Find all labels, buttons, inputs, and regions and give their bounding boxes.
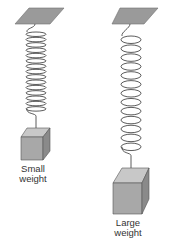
left-spring-assembly <box>15 8 64 160</box>
right-ceiling-plate <box>112 8 158 24</box>
large-weight-label-line2: weight <box>103 228 153 238</box>
small-weight-box <box>21 128 50 160</box>
large-weight-label: Large weight <box>103 218 153 238</box>
small-weight-label: Small weight <box>8 164 58 184</box>
right-spring-assembly <box>112 8 158 214</box>
small-weight-label-line2: weight <box>8 174 58 184</box>
right-spring <box>121 24 141 173</box>
spring-weight-diagram: Small weight Large weight <box>0 0 189 245</box>
left-spring <box>26 24 46 130</box>
large-weight-box <box>113 168 149 214</box>
left-ceiling-plate <box>15 8 64 24</box>
